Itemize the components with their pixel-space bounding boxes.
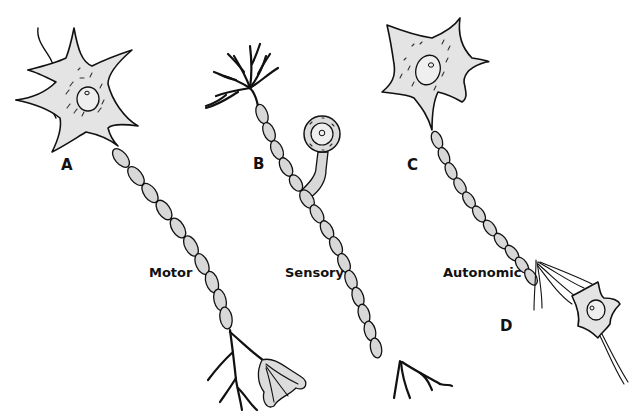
label-motor: Motor [149, 265, 192, 280]
label-a: A [61, 156, 73, 174]
postganglionic-neuron [572, 282, 628, 384]
label-d: D [500, 317, 512, 335]
neuron-diagram: A B C D Motor Sensory Autonomic [0, 0, 636, 419]
diagram-drawing [0, 0, 636, 419]
label-b: B [253, 155, 264, 173]
motor-neuron [16, 28, 306, 410]
label-sensory: Sensory [285, 265, 344, 280]
label-autonomic: Autonomic [443, 265, 521, 280]
label-c: C [407, 156, 418, 174]
